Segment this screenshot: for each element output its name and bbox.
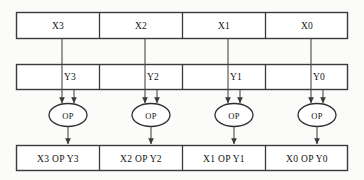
x-cell-label-2: X2 <box>135 21 147 31</box>
op-label-lane-3: OP <box>62 111 73 121</box>
x-cell-label-3: X3 <box>52 21 64 31</box>
result-cell-label-2: X2 OP Y2 <box>120 154 162 164</box>
diagram-canvas: X3 X2 X1 X0 Y3 Y2 Y1 Y0 <box>0 0 364 180</box>
x-cell-label-1: X1 <box>218 21 230 31</box>
y-operand-connectors <box>74 90 323 104</box>
result-connectors <box>68 127 317 145</box>
x-cell-label-0: X0 <box>301 21 313 31</box>
y-register-row: Y3 Y2 Y1 Y0 <box>17 65 348 90</box>
y-cell-label-2: Y2 <box>147 72 159 82</box>
x-register-row: X3 X2 X1 X0 <box>17 13 348 39</box>
result-cell-label-3: X3 OP Y3 <box>37 154 79 164</box>
op-label-lane-1: OP <box>228 111 239 121</box>
simd-operation-diagram: X3 X2 X1 X0 Y3 Y2 Y1 Y0 <box>0 0 364 180</box>
y-cell-label-3: Y3 <box>64 72 76 82</box>
op-label-lane-2: OP <box>145 111 156 121</box>
result-cell-label-0: X0 OP Y0 <box>286 154 328 164</box>
y-cell-label-0: Y0 <box>313 72 325 82</box>
result-cell-label-1: X1 OP Y1 <box>203 154 245 164</box>
operator-nodes: OP OP OP OP <box>49 104 336 127</box>
op-label-lane-0: OP <box>311 111 322 121</box>
result-register-row: X3 OP Y3 X2 OP Y2 X1 OP Y1 X0 OP Y0 <box>17 146 348 171</box>
y-cell-label-1: Y1 <box>230 72 242 82</box>
